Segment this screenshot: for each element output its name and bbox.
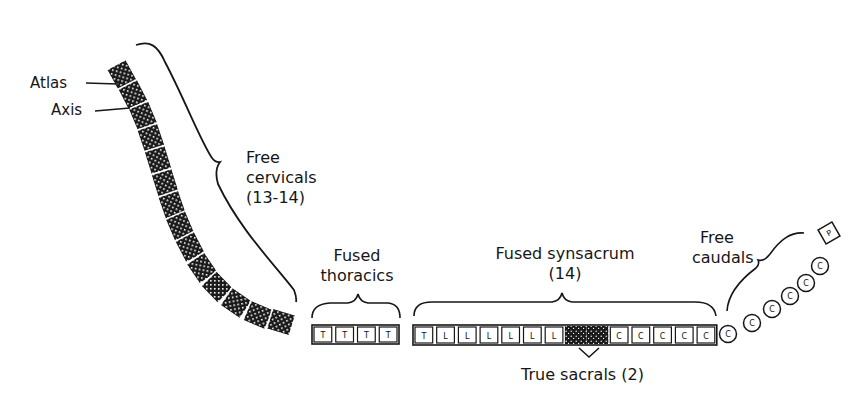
thoracic-block: TTTT [312,325,399,344]
svg-text:L: L [552,332,557,341]
thoracic-brace [312,294,400,318]
svg-text:C: C [817,262,823,271]
svg-text:C: C [769,305,775,314]
fused-thoracics-line-2: thoracics [312,266,402,286]
svg-text:C: C [681,332,687,341]
atlas-label: Atlas [30,74,67,92]
fused-synsacrum-label: Fused synsacrum (14) [470,244,660,284]
synsacrum-block: TLLLLLLCCCCC [413,325,717,345]
svg-text:C: C [703,332,709,341]
svg-text:C: C [803,279,809,288]
fused-thoracics-label: Fused thoracics [312,246,402,286]
svg-text:T: T [385,331,391,340]
svg-text:C: C [660,332,666,341]
cervical-vertebra [266,308,295,336]
free-cervicals-line-1: Free [246,148,317,168]
svg-text:C: C [616,332,622,341]
svg-text:T: T [319,331,325,340]
free-caudals-label: Free caudals [692,228,753,268]
axis-leader [95,108,130,111]
synsacrum-brace [414,293,716,316]
svg-text:L: L [487,332,492,341]
true-sacrals-pointer [579,348,599,357]
free-caudals-line-2: caudals [692,248,753,268]
pygostyle: P [818,222,840,244]
spine-diagram: TTTT TLLLLLLCCCCC CCCCCCP [0,0,866,407]
true-sacral-vertebra [587,326,609,344]
true-sacral-vertebra [565,326,587,344]
svg-text:T: T [420,332,426,341]
svg-text:T: T [363,331,369,340]
axis-label: Axis [51,101,82,119]
svg-text:C: C [638,332,644,341]
fused-synsacrum-line-1: Fused synsacrum [470,244,660,264]
true-sacrals-label: True sacrals (2) [521,366,644,384]
svg-text:L: L [465,332,470,341]
free-cervicals-line-2: cervicals [246,168,317,188]
free-cervicals-label: Free cervicals (13-14) [246,148,317,208]
free-caudals-line-1: Free [692,228,753,248]
svg-text:C: C [749,319,755,328]
svg-text:C: C [787,292,793,301]
free-cervicals-line-3: (13-14) [246,188,317,208]
atlas-leader [86,83,118,84]
svg-text:L: L [530,332,535,341]
svg-text:L: L [443,332,448,341]
svg-text:C: C [725,330,731,339]
fused-synsacrum-line-2: (14) [470,264,660,284]
svg-text:T: T [341,331,347,340]
svg-text:L: L [508,332,513,341]
fused-thoracics-line-1: Fused [312,246,402,266]
